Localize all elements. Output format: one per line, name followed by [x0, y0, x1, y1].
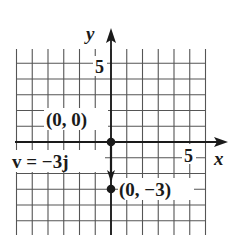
y-axis-label: y	[84, 23, 95, 44]
terminal-point-label: (0, −3)	[119, 179, 171, 201]
coordinate-plane: (0, 0) (0, −3) v = −3j 5 5 y x	[0, 0, 238, 240]
origin-point-label: (0, 0)	[46, 109, 87, 131]
vector-label: v = −3j	[12, 151, 68, 172]
axes	[15, 28, 228, 235]
point-origin	[107, 138, 116, 147]
y-tick-label: 5	[95, 57, 104, 77]
vector-v	[107, 142, 115, 182]
x-axis-label: x	[213, 148, 224, 169]
point-terminal	[107, 185, 116, 194]
x-tick-label: 5	[184, 146, 193, 166]
